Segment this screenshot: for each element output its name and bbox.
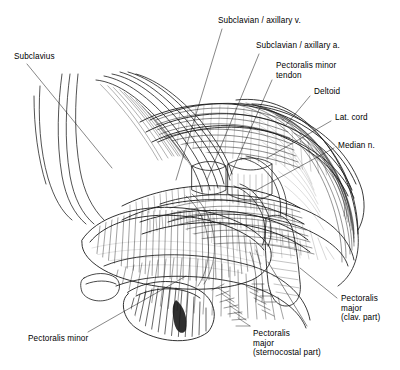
label-deltoid: Deltoid bbox=[314, 87, 340, 97]
leader-pm-tendon bbox=[230, 80, 272, 176]
subclavius-hatching bbox=[100, 84, 192, 168]
label-lateral-cord: Lat. cord bbox=[335, 113, 368, 123]
leader-pec-minor bbox=[88, 276, 186, 332]
label-subclavian-axillary-artery: Subclavian / axillary a. bbox=[256, 41, 340, 51]
axillary-artery-hatching bbox=[150, 209, 301, 255]
label-subclavius: Subclavius bbox=[14, 52, 55, 62]
pm-sternocostal-fibers bbox=[170, 200, 314, 254]
leader-vein bbox=[176, 29, 222, 180]
tendon-strip-hatching bbox=[268, 228, 300, 296]
cut-stump-shadow bbox=[173, 300, 187, 333]
label-pectoralis-major-clavicular: Pectoralis major (clav. part) bbox=[341, 294, 380, 323]
label-pectoralis-major-sternocostal: Pectoralis major (sternocostal part) bbox=[253, 329, 321, 358]
leader-pm-clav bbox=[300, 268, 337, 298]
axillary-vein bbox=[122, 186, 304, 224]
illustration-canvas bbox=[0, 0, 400, 370]
anterior-nub bbox=[81, 274, 120, 301]
label-subclavian-axillary-vein: Subclavian / axillary v. bbox=[218, 16, 301, 26]
label-median-nerve: Median n. bbox=[338, 141, 375, 151]
muscle-fringe bbox=[212, 284, 276, 326]
pectoralis-major-clav-fibers bbox=[156, 108, 300, 168]
cut-stump-dark-hatching bbox=[124, 287, 206, 341]
anatomical-figure: Subclavius Subclavian / axillary v. Subc… bbox=[0, 0, 400, 370]
label-pectoralis-minor: Pectoralis minor bbox=[28, 334, 88, 344]
label-pectoralis-minor-tendon: Pectoralis minor tendon bbox=[276, 61, 336, 80]
neck-strap-bands bbox=[34, 74, 104, 224]
leader-pm-stern bbox=[268, 262, 307, 326]
rib-segment-left bbox=[192, 162, 226, 195]
pectoralis-minor-hatching bbox=[96, 209, 261, 281]
